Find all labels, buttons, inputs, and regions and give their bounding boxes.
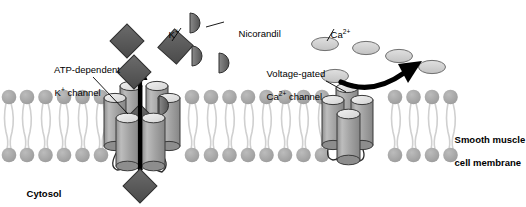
smooth-muscle-label-line2: cell membrane [455, 157, 522, 168]
calcium-ion-label-prefix: Ca [331, 29, 343, 40]
nicorandil-molecule [192, 46, 202, 66]
nicorandil-label: Nicorandil [228, 16, 281, 51]
potassium-ion-cytosolic [123, 169, 157, 203]
calcium-ion [386, 49, 413, 62]
atp-channel-label-line1: ATP-dependent [54, 64, 120, 75]
calcium-ion-label: Ca2+ [320, 18, 350, 51]
bilayer-upper-tails [5, 103, 456, 149]
potassium-ion-label: K+ [158, 18, 179, 51]
atp-channel-label: ATP-dependent K+ channel [44, 52, 120, 110]
calcium-ion [322, 69, 349, 82]
voltage-gated-calcium-channel[interactable] [322, 83, 373, 164]
diagram-canvas: ATP-dependent K+ channel Nicorandil Volt… [0, 0, 526, 207]
voltage-channel-label-line2-suffix: channel [286, 91, 322, 102]
smooth-muscle-label-line1: Smooth muscle [455, 134, 526, 145]
potassium-ion-label-superscript: + [175, 28, 179, 35]
nicorandil-label-text: Nicorandil [239, 28, 281, 39]
voltage-channel-label-line1: Voltage-gated [267, 68, 326, 79]
calcium-channel-subunit-front [337, 109, 360, 165]
nicorandil-molecule [219, 53, 229, 73]
nicorandil-leader [206, 22, 224, 27]
calcium-deflection-arrow [341, 61, 422, 87]
bilayer-lower-heads [2, 148, 458, 163]
calcium-ion [419, 60, 446, 73]
voltage-channel-label-line2-prefix: Ca [267, 91, 279, 102]
cytosol-label: Cytosol [16, 176, 61, 207]
calcium-ion-label-superscript: 2+ [343, 28, 351, 35]
atp-channel-label-line2-suffix: channel [65, 87, 101, 98]
voltage-channel-label: Voltage-gated Ca2+ channel [256, 56, 325, 114]
calcium-ion [353, 41, 380, 54]
nicorandil-molecule [190, 13, 200, 33]
cytosol-label-text: Cytosol [27, 188, 62, 199]
smooth-muscle-label: Smooth muscle cell membrane [444, 122, 525, 180]
